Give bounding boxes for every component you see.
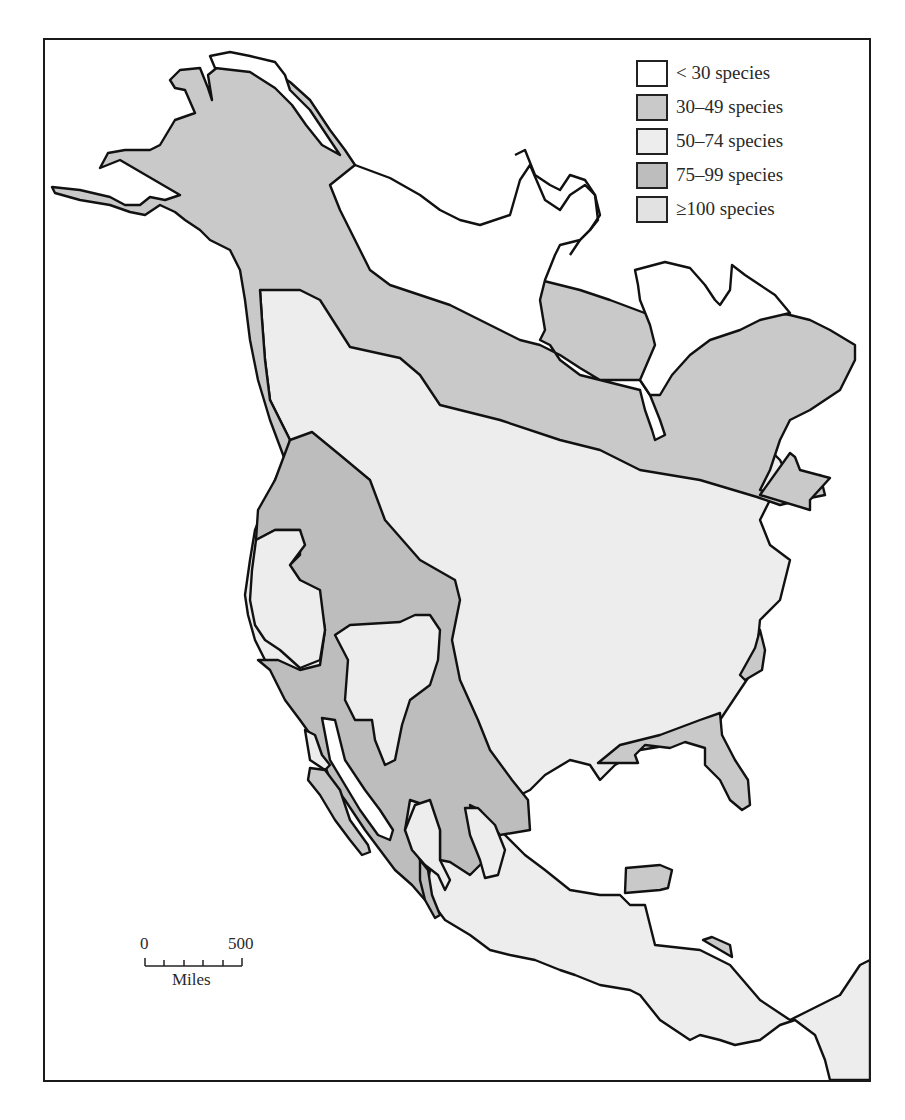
legend-swatch-gte100: [636, 196, 668, 223]
legend-item-lt30: < 30 species: [636, 56, 783, 90]
legend-item-50-74: 50–74 species: [636, 124, 783, 158]
legend-label: 75–99 species: [676, 164, 783, 186]
legend-label: ≥100 species: [676, 198, 775, 220]
legend-item-75-99: 75–99 species: [636, 158, 783, 192]
legend-item-30-49: 30–49 species: [636, 90, 783, 124]
zone-30-49-yucatan: [625, 865, 672, 893]
scale-bar-labels: 0 500 Miles: [140, 930, 260, 1000]
legend-label: 50–74 species: [676, 130, 783, 152]
legend-label: 30–49 species: [676, 96, 783, 118]
legend: < 30 species 30–49 species 50–74 species…: [636, 56, 783, 226]
legend-item-gte100: ≥100 species: [636, 192, 783, 226]
legend-swatch-50-74: [636, 128, 668, 155]
legend-swatch-75-99: [636, 162, 668, 189]
legend-swatch-30-49: [636, 94, 668, 121]
scale-end-label: 500: [228, 934, 254, 954]
legend-label: < 30 species: [676, 62, 770, 84]
scale-start-label: 0: [140, 934, 149, 954]
scale-unit-label: Miles: [172, 970, 211, 990]
legend-swatch-lt30: [636, 60, 668, 87]
